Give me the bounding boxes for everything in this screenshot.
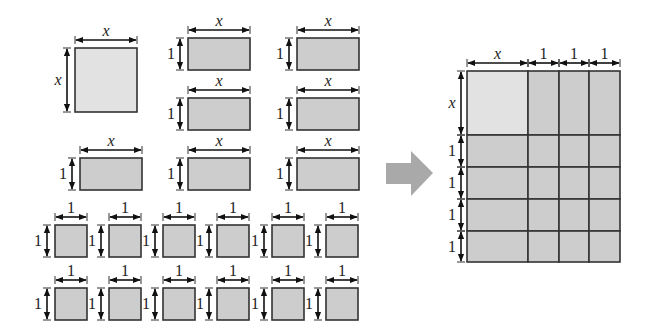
- dimension-label: x: [214, 72, 222, 89]
- grid-cell: [467, 231, 528, 262]
- unit-tile: 11: [88, 199, 141, 257]
- unit-tile: 11: [251, 262, 304, 320]
- dimension-label: x: [106, 132, 114, 149]
- grid-cell: [559, 135, 589, 167]
- dimension-label: 1: [276, 165, 284, 182]
- unit-tile: 11: [34, 262, 87, 320]
- grid-cell: [589, 167, 620, 199]
- dimension-label: 1: [88, 295, 96, 312]
- dimension-label: 1: [196, 295, 204, 312]
- grid-cell: [589, 231, 620, 262]
- dimension-label: 1: [305, 232, 313, 249]
- dimension-label: 1: [175, 262, 183, 279]
- x-tile: x1: [59, 132, 142, 190]
- unit-tile: 11: [88, 262, 141, 320]
- grid-cell: [528, 71, 559, 135]
- grid-cell: [467, 71, 528, 135]
- dimension-label: 1: [167, 105, 175, 122]
- dimension-label: 1: [338, 199, 346, 216]
- dimension-label: x: [447, 94, 455, 111]
- grid-cell: [559, 71, 589, 135]
- dimension-label: 1: [121, 199, 129, 216]
- tile-rect: [109, 288, 141, 320]
- dimension-label: 1: [448, 174, 456, 191]
- grid-cell: [467, 167, 528, 199]
- tile-rect: [326, 225, 358, 257]
- dimension-label: 1: [284, 262, 292, 279]
- dimension-label: 1: [67, 262, 75, 279]
- dimension-label: 1: [448, 206, 456, 223]
- tile-rect: [188, 98, 250, 130]
- dimension-label: 1: [175, 199, 183, 216]
- x-tile: x1: [167, 72, 250, 130]
- tile-rect: [326, 288, 358, 320]
- dimension-label: 1: [540, 45, 548, 62]
- tile-rect: [188, 38, 250, 70]
- dimension-label: 1: [167, 45, 175, 62]
- dimension-label: x: [101, 22, 109, 39]
- dimension-label: x: [323, 72, 331, 89]
- grid-cell: [467, 199, 528, 231]
- dimension-label: x: [323, 12, 331, 29]
- dimension-label: 1: [34, 295, 42, 312]
- unit-tile: 11: [196, 262, 249, 320]
- grid-cell: [528, 167, 559, 199]
- dimension-label: 1: [448, 142, 456, 159]
- combined-rectangle: x111x1111: [447, 45, 620, 262]
- dimension-label: 1: [121, 262, 129, 279]
- tile-rect: [55, 225, 87, 257]
- dimension-label: 1: [448, 238, 456, 255]
- grid-cell: [467, 135, 528, 167]
- dimension-label: 1: [167, 165, 175, 182]
- tile-rect: [297, 98, 359, 130]
- dimension-label: 1: [229, 199, 237, 216]
- x-tile: x1: [276, 12, 359, 70]
- x-tile: x1: [276, 132, 359, 190]
- unit-tile: 11: [142, 199, 195, 257]
- dimension-label: 1: [284, 199, 292, 216]
- dimension-label: 1: [196, 232, 204, 249]
- grid-cell: [589, 199, 620, 231]
- dimension-label: 1: [67, 199, 75, 216]
- dimension-label: 1: [142, 295, 150, 312]
- unit-tile: 11: [142, 262, 195, 320]
- x-tile: x1: [276, 72, 359, 130]
- dimension-label: 1: [229, 262, 237, 279]
- tile-rect: [217, 288, 249, 320]
- tile-rect: [55, 288, 87, 320]
- tile-rect: [80, 158, 142, 190]
- grid-cell: [559, 199, 589, 231]
- dimension-label: 1: [276, 105, 284, 122]
- tile-rect: [272, 225, 304, 257]
- x-tile: x1: [167, 12, 250, 70]
- dimension-label: x: [323, 132, 331, 149]
- tile-rect: [188, 158, 250, 190]
- grid-cell: [528, 231, 559, 262]
- tile-rect: [163, 288, 195, 320]
- algebra-tiles-diagram: xxx1x1x1x1x1x1x1111111111111111111111111…: [0, 0, 650, 332]
- unit-tile: 11: [196, 199, 249, 257]
- transform-arrow-icon: [386, 151, 433, 196]
- tile-rect: [297, 38, 359, 70]
- grid-cell: [589, 135, 620, 167]
- unit-tile: 11: [251, 199, 304, 257]
- dimension-label: 1: [59, 165, 67, 182]
- tile-rect: [163, 225, 195, 257]
- dimension-label: 1: [34, 232, 42, 249]
- tile-rect: [109, 225, 141, 257]
- tile-rect: [297, 158, 359, 190]
- unit-tile: 11: [305, 262, 358, 320]
- dimension-label: 1: [338, 262, 346, 279]
- dimension-label: 1: [88, 232, 96, 249]
- dimension-label: x: [53, 71, 61, 88]
- dimension-label: x: [493, 45, 501, 62]
- grid-cell: [559, 167, 589, 199]
- dimension-label: 1: [601, 45, 609, 62]
- x-tile: x1: [167, 132, 250, 190]
- dimension-label: x: [214, 12, 222, 29]
- grid-cell: [589, 71, 620, 135]
- dimension-label: 1: [142, 232, 150, 249]
- unit-tile: 11: [305, 199, 358, 257]
- tile-rect: [217, 225, 249, 257]
- x-squared-tile: xx: [53, 22, 137, 112]
